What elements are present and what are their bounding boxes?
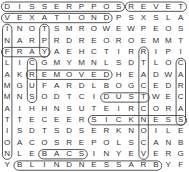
letter-cell[interactable]: T <box>38 126 50 137</box>
letter-cell[interactable]: K <box>13 69 25 80</box>
letter-cell[interactable]: A <box>13 137 25 148</box>
letter-cell[interactable]: F <box>174 160 186 171</box>
letter-cell[interactable]: D <box>100 69 112 80</box>
letter-cell[interactable]: I <box>88 148 100 159</box>
letter-cell[interactable]: I <box>150 46 162 57</box>
letter-cell[interactable]: E <box>26 148 38 159</box>
letter-cell[interactable]: A <box>51 80 63 91</box>
letter-cell[interactable]: M <box>51 58 63 69</box>
letter-cell[interactable]: A <box>174 103 186 114</box>
letter-cell[interactable]: R <box>125 1 137 12</box>
letter-cell[interactable]: N <box>13 24 25 35</box>
letter-cell[interactable]: E <box>113 24 125 35</box>
letter-cell[interactable]: O <box>1 137 13 148</box>
letter-cell[interactable]: L <box>162 126 174 137</box>
letter-cell[interactable]: T <box>63 92 75 103</box>
letter-cell[interactable]: O <box>150 103 162 114</box>
letter-cell[interactable]: K <box>125 114 137 125</box>
letter-cell[interactable]: A <box>137 69 149 80</box>
letter-cell[interactable]: D <box>63 35 75 46</box>
letter-cell[interactable]: R <box>51 35 63 46</box>
letter-cell[interactable]: P <box>88 1 100 12</box>
letter-cell[interactable]: O <box>38 137 50 148</box>
letter-cell[interactable]: T <box>38 24 50 35</box>
letter-cell[interactable]: B <box>174 137 186 148</box>
letter-cell[interactable]: S <box>125 12 137 23</box>
letter-cell[interactable]: X <box>26 12 38 23</box>
letter-cell[interactable]: L <box>13 148 25 159</box>
letter-cell[interactable]: I <box>38 160 50 171</box>
letter-cell[interactable]: A <box>174 69 186 80</box>
letter-cell[interactable]: E <box>88 35 100 46</box>
letter-cell[interactable]: N <box>1 148 13 159</box>
letter-cell[interactable]: E <box>150 114 162 125</box>
letter-cell[interactable]: V <box>150 1 162 12</box>
letter-cell[interactable]: S <box>63 103 75 114</box>
letter-cell[interactable]: A <box>1 69 13 80</box>
letter-cell[interactable]: E <box>162 1 174 12</box>
letter-cell[interactable]: Y <box>162 160 174 171</box>
letter-cell[interactable]: D <box>26 126 38 137</box>
letter-cell[interactable]: I <box>150 126 162 137</box>
letter-cell[interactable]: L <box>100 58 112 69</box>
letter-cell[interactable]: R <box>137 160 149 171</box>
letter-cell[interactable]: G <box>125 80 137 91</box>
letter-cell[interactable]: N <box>51 160 63 171</box>
letter-cell[interactable]: A <box>174 12 186 23</box>
letter-cell[interactable]: E <box>150 148 162 159</box>
letter-cell[interactable]: S <box>26 1 38 12</box>
letter-cell[interactable]: R <box>162 103 174 114</box>
letter-cell[interactable]: R <box>162 148 174 159</box>
letter-cell[interactable]: L <box>162 12 174 23</box>
letter-cell[interactable]: D <box>51 92 63 103</box>
letter-cell[interactable]: L <box>26 160 38 171</box>
letter-cell[interactable]: E <box>63 114 75 125</box>
letter-cell[interactable]: D <box>100 12 112 23</box>
letter-cell[interactable]: C <box>113 114 125 125</box>
letter-cell[interactable]: C <box>137 103 149 114</box>
letter-cell[interactable]: X <box>137 12 149 23</box>
letter-cell[interactable]: H <box>38 103 50 114</box>
letter-cell[interactable]: S <box>113 58 125 69</box>
letter-cell[interactable]: E <box>137 35 149 46</box>
letter-cell[interactable]: L <box>150 58 162 69</box>
letter-cell[interactable]: E <box>63 46 75 57</box>
letter-cell[interactable]: I <box>113 46 125 57</box>
letter-cell[interactable]: R <box>63 1 75 12</box>
letter-cell[interactable]: S <box>51 137 63 148</box>
letter-cell[interactable]: V <box>137 148 149 159</box>
letter-cell[interactable]: L <box>88 80 100 91</box>
letter-cell[interactable]: C <box>88 46 100 57</box>
letter-cell[interactable]: L <box>113 137 125 148</box>
letter-cell[interactable]: M <box>1 80 13 91</box>
letter-cell[interactable]: E <box>137 1 149 12</box>
letter-cell[interactable]: S <box>26 92 38 103</box>
letter-cell[interactable]: S <box>100 160 112 171</box>
letter-cell[interactable]: S <box>113 1 125 12</box>
letter-cell[interactable]: G <box>38 58 50 69</box>
letter-cell[interactable]: E <box>100 103 112 114</box>
letter-cell[interactable]: D <box>1 1 13 12</box>
letter-cell[interactable]: N <box>100 148 112 159</box>
letter-cell[interactable]: O <box>38 92 50 103</box>
letter-cell[interactable]: A <box>125 160 137 171</box>
letter-cell[interactable]: I <box>100 114 112 125</box>
letter-cell[interactable]: E <box>174 126 186 137</box>
letter-cell[interactable]: C <box>174 92 186 103</box>
letter-cell[interactable]: E <box>88 160 100 171</box>
letter-cell[interactable]: M <box>1 92 13 103</box>
letter-cell[interactable]: O <box>100 137 112 148</box>
letter-cell[interactable]: R <box>26 35 38 46</box>
letter-cell[interactable]: R <box>174 80 186 91</box>
letter-cell[interactable]: P <box>113 12 125 23</box>
letter-cell[interactable]: T <box>174 1 186 12</box>
letter-cell[interactable]: S <box>174 114 186 125</box>
letter-cell[interactable]: R <box>63 137 75 148</box>
letter-cell[interactable]: T <box>137 92 149 103</box>
letter-cell[interactable]: F <box>1 46 13 57</box>
letter-cell[interactable]: C <box>137 137 149 148</box>
letter-cell[interactable]: O <box>26 24 38 35</box>
letter-cell[interactable]: U <box>75 103 87 114</box>
letter-cell[interactable]: E <box>150 24 162 35</box>
letter-cell[interactable]: O <box>125 35 137 46</box>
